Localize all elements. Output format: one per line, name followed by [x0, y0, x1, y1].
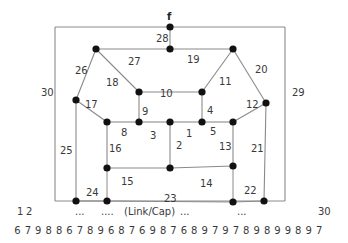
capacity-value: 9	[199, 225, 210, 236]
capacity-value: 9	[282, 225, 293, 236]
capacity-value: 8	[293, 225, 304, 236]
link-label: 10	[160, 88, 173, 99]
link-label: 21	[251, 143, 264, 154]
link-21	[264, 103, 266, 201]
link-label: 27	[128, 56, 141, 67]
link-label: 3	[150, 130, 156, 141]
node-n_r1	[103, 118, 110, 125]
index-label: (Link/Cap)	[124, 206, 175, 217]
capacity-value: 8	[262, 225, 273, 236]
node-f	[166, 23, 173, 30]
index-label: 1	[17, 206, 23, 217]
capacity-value: 6	[106, 225, 117, 236]
capacity-value: 7	[230, 225, 241, 236]
index-label: ...	[75, 206, 85, 217]
node-n_mid_right	[262, 99, 269, 106]
node-n_l2	[166, 164, 173, 171]
index-label: ....	[101, 206, 114, 217]
edges	[55, 27, 285, 202]
capacity-value: 8	[43, 225, 54, 236]
link-label: 8	[121, 127, 127, 138]
link-label: 13	[219, 141, 232, 152]
link-label: 2	[176, 140, 182, 151]
link-label: 15	[121, 176, 134, 187]
capacity-value: 8	[241, 225, 252, 236]
capacity-value: 9	[272, 225, 283, 236]
link-label: 9	[142, 106, 148, 117]
link-14	[170, 166, 233, 168]
link-label: 16	[109, 143, 122, 154]
capacity-value: 7	[314, 225, 325, 236]
capacity-value: 7	[168, 225, 179, 236]
node-n_r3	[166, 118, 173, 125]
link-label: 20	[255, 64, 268, 75]
capacity-value: 8	[54, 225, 65, 236]
link-label: 26	[75, 65, 88, 76]
capacity-value: 9	[303, 225, 314, 236]
link-label: 5	[210, 126, 216, 137]
node-n_r2	[135, 118, 142, 125]
outer-frame	[55, 27, 285, 202]
capacity-value: 7	[74, 225, 85, 236]
node-n_b4	[260, 197, 267, 204]
link-label: 28	[156, 33, 169, 44]
capacity-value: 9	[95, 225, 106, 236]
capacity-value: 6	[64, 225, 75, 236]
link-label: 24	[86, 187, 99, 198]
capacity-value: 6	[12, 225, 23, 236]
link-label: 19	[187, 54, 200, 65]
capacity-value: 8	[158, 225, 169, 236]
node-n_b2	[103, 197, 110, 204]
link-label: 4	[207, 105, 213, 116]
capacity-value: 8	[85, 225, 96, 236]
node-n_r5	[229, 118, 236, 125]
link-label: 29	[292, 87, 305, 98]
node-n_top_left	[92, 45, 99, 52]
network-diagram: 1234589101112131415161718192021222324252…	[0, 0, 348, 215]
index-label: ...	[180, 206, 190, 217]
link-label: 18	[106, 77, 119, 88]
link-label: 25	[60, 145, 73, 156]
capacity-value: 9	[251, 225, 262, 236]
source-node-label: f	[167, 11, 172, 22]
node-n_mid_left	[72, 96, 79, 103]
link-label: 22	[244, 185, 257, 196]
capacity-value: 7	[210, 225, 221, 236]
index-label: 2	[26, 206, 32, 217]
capacity-value: 8	[116, 225, 127, 236]
node-n_r4	[198, 118, 205, 125]
capacity-value: 6	[137, 225, 148, 236]
node-n_l3	[229, 162, 236, 169]
capacity-value: 6	[178, 225, 189, 236]
index-label: ...	[237, 206, 247, 217]
link-label: 12	[246, 99, 259, 110]
index-label: 30	[318, 206, 331, 217]
capacity-value: 7	[22, 225, 33, 236]
node-n_b1	[72, 197, 79, 204]
capacity-value: 9	[33, 225, 44, 236]
link-label: 11	[219, 76, 232, 87]
capacity-value: 9	[147, 225, 158, 236]
link-label: 14	[200, 178, 213, 189]
node-n_b3	[229, 198, 236, 205]
link-label: 23	[164, 193, 177, 204]
link-label: 30	[41, 87, 54, 98]
link-20	[233, 49, 266, 103]
link-label: 1	[186, 128, 192, 139]
nodes	[72, 23, 269, 205]
capacity-value: 8	[189, 225, 200, 236]
capacity-value: 9	[220, 225, 231, 236]
node-n_l1	[103, 164, 110, 171]
node-n_in_tl	[135, 88, 142, 95]
node-n_top_mid	[166, 45, 173, 52]
capacity-value: 7	[126, 225, 137, 236]
node-n_top_right	[229, 45, 236, 52]
link-label: 17	[85, 99, 98, 110]
node-n_in_tr	[198, 88, 205, 95]
